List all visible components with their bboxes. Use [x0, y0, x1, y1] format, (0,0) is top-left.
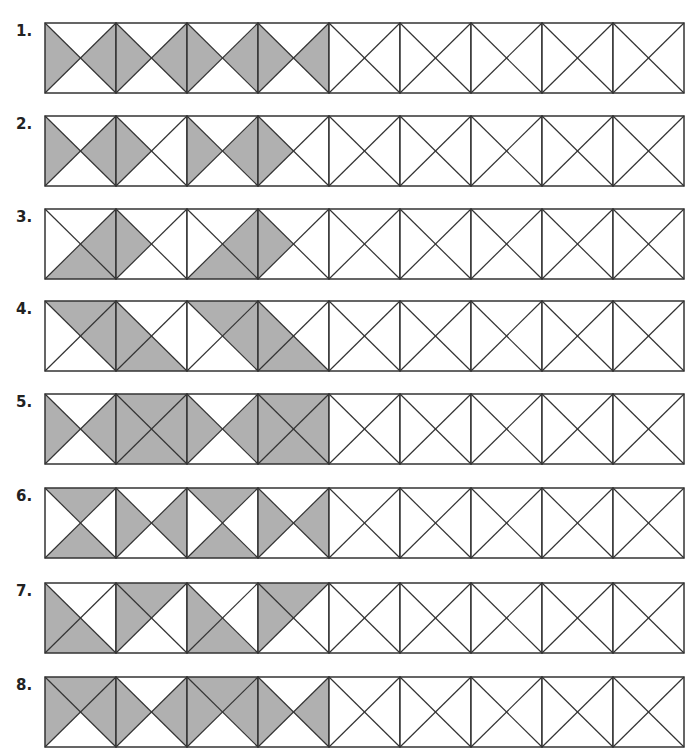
pattern-row: 1.: [0, 22, 697, 94]
pattern-row: 3.: [0, 208, 697, 280]
pattern-row: 5.: [0, 393, 697, 465]
pattern-row: 8.: [0, 676, 697, 748]
row-number: 4.: [16, 300, 32, 318]
row-number: 6.: [16, 487, 32, 505]
pattern-row: 6.: [0, 487, 697, 559]
pattern-row: 4.: [0, 300, 697, 372]
triangle-strip: [44, 208, 685, 280]
pattern-row: 2.: [0, 115, 697, 187]
pattern-row: 7.: [0, 582, 697, 654]
row-number: 5.: [16, 393, 32, 411]
row-number: 1.: [16, 22, 32, 40]
triangle-strip: [44, 487, 685, 559]
triangle-strip: [44, 582, 685, 654]
row-number: 3.: [16, 208, 32, 226]
row-number: 8.: [16, 676, 32, 694]
triangle-strip: [44, 393, 685, 465]
triangle-strip: [44, 300, 685, 372]
triangle-strip: [44, 676, 685, 748]
triangle-strip: [44, 22, 685, 94]
row-number: 7.: [16, 582, 32, 600]
row-number: 2.: [16, 115, 32, 133]
triangle-strip: [44, 115, 685, 187]
